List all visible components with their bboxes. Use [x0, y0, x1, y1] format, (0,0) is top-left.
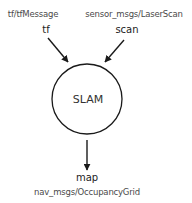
- map-topic-label: map: [76, 173, 98, 183]
- slam-node-label: SLAM: [73, 94, 103, 105]
- tf-message-type-label: tf/tfMessage: [8, 10, 58, 19]
- laserscan-message-type-label: sensor_msgs/LaserScan: [85, 10, 182, 19]
- tf-topic-label: tf: [42, 25, 49, 35]
- scan-topic-label: scan: [115, 25, 138, 35]
- tf-input-arrow: [48, 38, 68, 62]
- occupancygrid-message-type-label: nav_msgs/OccupancyGrid: [34, 188, 140, 197]
- scan-input-arrow: [105, 40, 124, 62]
